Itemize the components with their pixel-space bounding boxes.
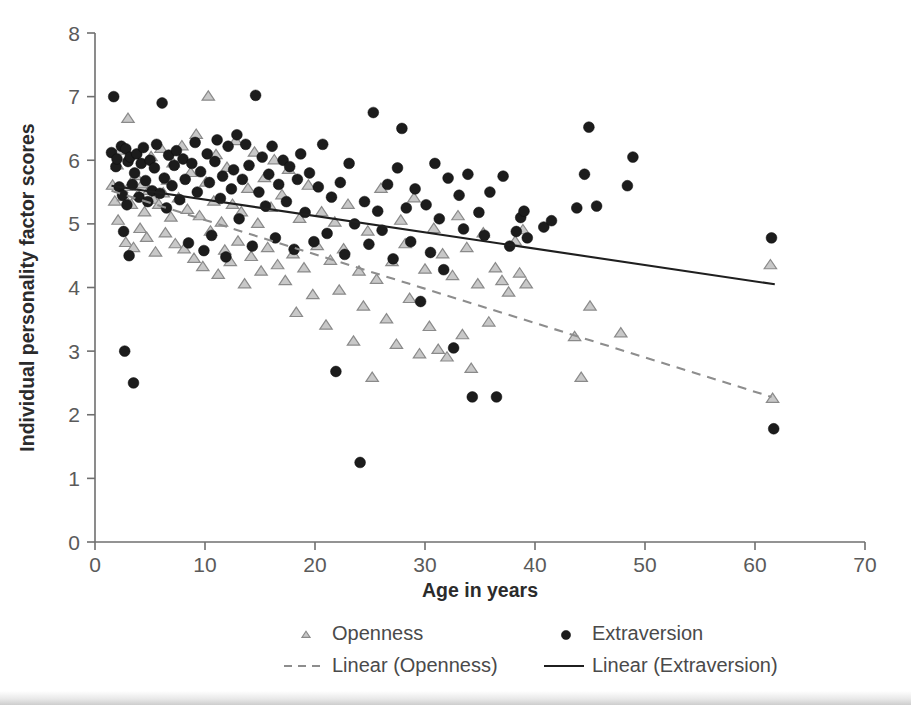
data-point — [151, 139, 162, 150]
data-point — [232, 129, 243, 140]
data-point — [483, 317, 495, 326]
data-point — [579, 169, 590, 180]
data-point — [161, 203, 172, 214]
data-point — [519, 206, 530, 217]
data-point — [315, 207, 327, 216]
data-point — [766, 393, 778, 402]
y-tick-label: 2 — [68, 403, 80, 426]
data-point — [320, 320, 332, 329]
y-tick-label: 4 — [68, 276, 80, 299]
x-tick-label: 10 — [193, 553, 216, 576]
data-point — [267, 141, 278, 152]
x-axis-ticks: 010203040506070 — [89, 542, 877, 576]
data-point — [141, 232, 153, 241]
legend-label: Linear (Extraversion) — [592, 654, 778, 676]
data-point — [169, 238, 181, 247]
data-point — [186, 158, 197, 169]
y-tick-label: 7 — [68, 85, 80, 108]
data-point — [410, 183, 421, 194]
data-point — [392, 162, 403, 173]
data-point — [575, 372, 587, 381]
data-point — [108, 91, 119, 102]
data-point — [344, 158, 355, 169]
data-point — [262, 242, 274, 251]
data-point — [454, 190, 465, 201]
data-point — [244, 160, 255, 171]
data-point — [271, 259, 283, 268]
data-point — [405, 236, 416, 247]
data-point — [183, 238, 194, 249]
data-point — [122, 199, 133, 210]
data-point — [546, 215, 557, 226]
data-point — [237, 174, 248, 185]
x-tick-label: 0 — [89, 553, 101, 576]
data-point — [511, 226, 522, 237]
data-point — [124, 250, 135, 261]
data-point — [571, 203, 582, 214]
legend-item[interactable]: Openness — [302, 622, 423, 644]
data-point — [382, 179, 393, 190]
data-point — [513, 268, 525, 277]
data-points-extraversion — [106, 90, 779, 468]
data-point — [489, 263, 501, 272]
data-point — [467, 392, 478, 403]
data-point — [202, 91, 214, 100]
x-tick-label: 60 — [743, 553, 766, 576]
data-point — [584, 122, 595, 133]
data-point — [432, 344, 444, 353]
y-tick-label: 1 — [68, 467, 80, 490]
data-point — [401, 203, 412, 214]
data-point — [366, 372, 378, 381]
legend-item[interactable]: Extraversion — [561, 622, 703, 644]
data-point — [591, 201, 602, 212]
data-point — [421, 199, 432, 210]
x-tick-label: 20 — [303, 553, 326, 576]
data-point — [304, 168, 315, 179]
data-point — [390, 339, 402, 348]
data-point — [491, 392, 502, 403]
data-point — [443, 173, 454, 184]
data-point — [122, 113, 134, 122]
data-point — [112, 215, 124, 224]
data-point — [149, 162, 160, 173]
legend-item[interactable]: Linear (Extraversion) — [544, 654, 778, 676]
data-point — [298, 263, 310, 272]
data-point — [333, 285, 345, 294]
data-point — [768, 423, 779, 434]
data-point — [347, 336, 359, 345]
data-point — [430, 158, 441, 169]
legend-label: Openness — [332, 622, 423, 644]
data-point — [284, 161, 295, 172]
data-point — [766, 232, 777, 243]
data-point — [226, 183, 237, 194]
x-tick-label: 40 — [523, 553, 546, 576]
data-point — [438, 264, 449, 275]
data-point — [452, 210, 464, 219]
data-point — [403, 293, 415, 302]
data-point — [615, 328, 627, 337]
data-point — [436, 249, 448, 258]
legend-item[interactable]: Linear (Openness) — [284, 654, 498, 676]
data-point — [472, 279, 484, 288]
legend-label: Extraversion — [592, 622, 703, 644]
data-point — [317, 139, 328, 150]
data-point — [448, 343, 459, 354]
y-tick-label: 6 — [68, 149, 80, 172]
data-point — [584, 301, 596, 310]
data-point — [192, 187, 203, 198]
data-point — [622, 180, 633, 191]
data-point — [167, 180, 178, 191]
data-point — [463, 169, 474, 180]
data-point — [129, 168, 140, 179]
data-point — [212, 269, 224, 278]
chart-legend: OpennessExtraversionLinear (Openness)Lin… — [284, 622, 778, 676]
data-point — [190, 137, 201, 148]
data-point — [380, 314, 392, 323]
data-point — [217, 171, 228, 182]
data-point — [212, 134, 223, 145]
data-point — [428, 223, 440, 232]
data-point — [335, 177, 346, 188]
data-point — [370, 274, 382, 283]
data-point — [281, 196, 292, 207]
chart-canvas: 012345678 010203040506070 Age in years I… — [0, 0, 911, 705]
